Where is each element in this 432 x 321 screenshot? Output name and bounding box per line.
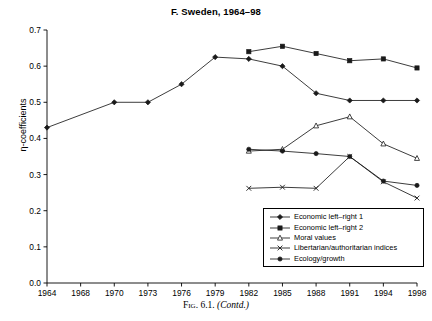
data-point-marker xyxy=(415,196,420,201)
data-point-marker xyxy=(348,59,352,63)
legend-label: Economic left–right 1 xyxy=(291,212,363,222)
data-point-marker xyxy=(44,125,49,130)
y-axis-tick-label: 0.7 xyxy=(29,25,41,35)
legend-item: Moral values xyxy=(269,233,419,243)
x-axis-tick-label: 1973 xyxy=(139,288,158,298)
data-point-marker xyxy=(348,154,352,158)
data-point-marker xyxy=(347,98,352,103)
chart-legend: Economic left–right 1Economic left–right… xyxy=(263,208,424,267)
data-point-marker xyxy=(314,152,318,156)
y-axis-tick-label: 0.4 xyxy=(29,133,41,143)
x-axis-tick-label: 1970 xyxy=(105,288,124,298)
x-axis-tick-label: 1968 xyxy=(71,288,90,298)
series-1 xyxy=(44,55,419,131)
data-point-marker xyxy=(381,98,386,103)
data-point-marker xyxy=(415,183,419,187)
data-point-marker xyxy=(247,147,251,151)
data-point-marker xyxy=(415,66,419,70)
series-3 xyxy=(246,114,419,160)
x-axis-tick-label: 1985 xyxy=(273,288,292,298)
data-point-marker xyxy=(145,100,150,105)
legend-marker-x-icon xyxy=(269,243,291,253)
x-axis-tick-label: 1982 xyxy=(239,288,258,298)
y-axis-tick-label: 0.3 xyxy=(29,170,41,180)
y-axis-tick-label: 0.6 xyxy=(29,61,41,71)
x-axis-tick-label: 1988 xyxy=(307,288,326,298)
data-point-marker xyxy=(280,149,284,153)
data-point-marker xyxy=(278,257,282,261)
data-point-marker xyxy=(381,179,385,183)
legend-item: Economic left–right 1 xyxy=(269,212,419,222)
data-point-marker xyxy=(112,100,117,105)
figure-container: F. Sweden, 1964–98 η-coefficients 0.00.1… xyxy=(0,0,432,321)
legend-label: Economic left–right 2 xyxy=(291,223,363,233)
y-axis-tick-label: 0.2 xyxy=(29,206,41,216)
data-point-marker xyxy=(280,44,284,48)
data-point-marker xyxy=(414,98,419,103)
data-point-marker xyxy=(347,114,352,119)
data-point-marker xyxy=(247,50,251,54)
data-point-marker xyxy=(246,56,251,61)
legend-label: Libertarian/authoritarian indices xyxy=(291,243,397,253)
series-line xyxy=(47,57,417,127)
legend-marker-diamond-icon xyxy=(269,212,291,222)
y-axis-tick-label: 0.5 xyxy=(29,97,41,107)
x-axis-tick-label: 1976 xyxy=(172,288,191,298)
legend-marker-square-icon xyxy=(269,223,291,233)
legend-item: Ecology/growth xyxy=(269,254,419,264)
series-4 xyxy=(246,154,419,200)
data-point-marker xyxy=(277,215,282,220)
series-2 xyxy=(247,44,419,70)
legend-marker-triangle-icon xyxy=(269,233,291,243)
y-axis-tick-label: 0.1 xyxy=(29,242,41,252)
figure-caption: Fig. 6.1. (Contd.) xyxy=(0,300,432,310)
legend-marker-dot-icon xyxy=(269,254,291,264)
data-point-marker xyxy=(278,225,282,229)
figure-caption-prefix: Fig. 6.1. xyxy=(183,300,215,310)
x-axis-tick-label: 1994 xyxy=(374,288,393,298)
data-point-marker xyxy=(381,141,386,146)
x-axis-tick-label: 1991 xyxy=(340,288,359,298)
x-axis-tick-label: 1998 xyxy=(408,288,427,298)
x-axis-tick-label: 1979 xyxy=(206,288,225,298)
legend-label: Ecology/growth xyxy=(291,254,345,264)
figure-caption-suffix: (Contd.) xyxy=(217,300,249,310)
legend-item: Economic left–right 2 xyxy=(269,222,419,232)
legend-item: Libertarian/authoritarian indices xyxy=(269,243,419,253)
series-line xyxy=(249,117,417,159)
x-axis-tick-label: 1964 xyxy=(38,288,57,298)
series-line xyxy=(249,149,417,185)
y-axis-tick-label: 0.0 xyxy=(29,278,41,288)
legend-label: Moral values xyxy=(291,233,336,243)
data-point-marker xyxy=(381,57,385,61)
series-line xyxy=(249,157,417,199)
series-5 xyxy=(247,147,419,187)
data-point-marker xyxy=(314,51,318,55)
